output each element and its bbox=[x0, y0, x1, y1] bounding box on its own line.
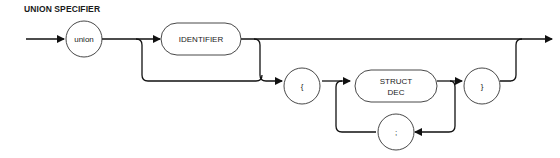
svg-text:IDENTIFIER: IDENTIFIER bbox=[179, 35, 224, 44]
svg-text:}: } bbox=[481, 82, 484, 91]
node-left-brace: { bbox=[284, 68, 320, 104]
svg-text:;: ; bbox=[395, 128, 397, 137]
node-struct-dec: STRUCT DEC bbox=[355, 70, 437, 102]
node-union: union bbox=[66, 21, 102, 57]
svg-text:DEC: DEC bbox=[388, 88, 405, 97]
svg-text:union: union bbox=[74, 35, 94, 44]
node-right-brace: } bbox=[464, 68, 500, 104]
syntax-diagram: union IDENTIFIER { STRUCT DEC } ; bbox=[0, 0, 560, 158]
svg-text:STRUCT: STRUCT bbox=[380, 77, 413, 86]
svg-text:{: { bbox=[301, 82, 304, 91]
node-identifier: IDENTIFIER bbox=[161, 23, 241, 55]
node-semicolon: ; bbox=[378, 114, 414, 150]
